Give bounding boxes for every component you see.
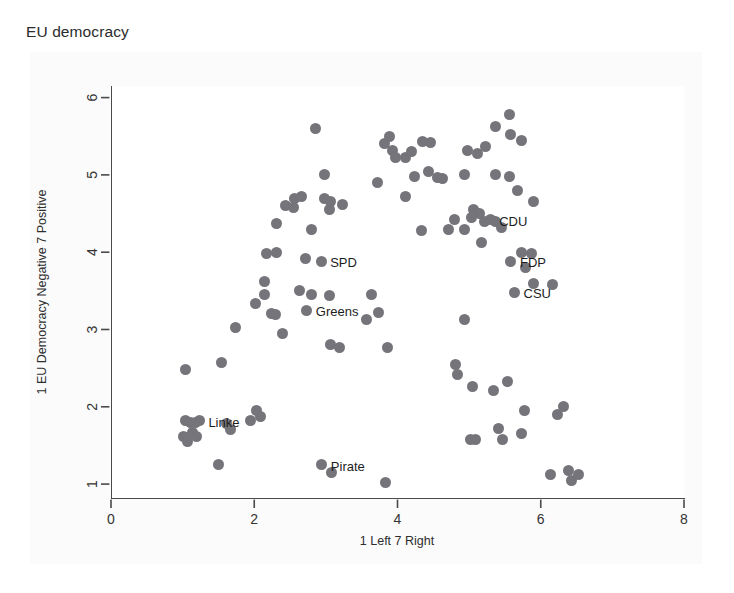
scatter-point (558, 401, 569, 412)
scatter-point (288, 202, 299, 213)
scatter-point (459, 314, 470, 325)
scatter-point-cdu (485, 214, 496, 225)
scatter-point (319, 169, 330, 180)
scatter-point (372, 177, 383, 188)
scatter-point (230, 322, 241, 333)
point-label-pirate: Pirate (331, 458, 365, 473)
scatter-point (409, 171, 420, 182)
scatter-point (416, 225, 427, 236)
scatter-point (512, 185, 523, 196)
scatter-point (216, 357, 227, 368)
point-label-greens: Greens (316, 304, 359, 319)
scatter-point (373, 307, 384, 318)
scatter-point (271, 218, 282, 229)
scatter-point (519, 405, 530, 416)
scatter-point (361, 314, 372, 325)
scatter-point-spd (316, 256, 327, 267)
scatter-point (271, 247, 282, 258)
scatter-point (425, 137, 436, 148)
scatter-point (573, 469, 584, 480)
scatter-point (400, 191, 411, 202)
scatter-point-linke (194, 415, 205, 426)
scatter-point (516, 135, 527, 146)
scatter-point (467, 381, 478, 392)
scatter-point (306, 224, 317, 235)
scatter-point (334, 342, 345, 353)
scatter-point (406, 146, 417, 157)
scatter-point-greens (301, 305, 312, 316)
point-label-cdu: CDU (499, 213, 527, 228)
scatter-point (259, 289, 270, 300)
scatter-point (337, 199, 348, 210)
scatter-point (470, 434, 481, 445)
scatter-point (191, 431, 202, 442)
scatter-point (490, 121, 501, 132)
scatter-point (380, 477, 391, 488)
scatter-point (259, 276, 270, 287)
point-label-linke: Linke (208, 414, 239, 429)
point-label-spd: SPD (330, 255, 357, 270)
scatter-point-csu (509, 287, 520, 298)
scatter-point (296, 191, 307, 202)
scatter-point (502, 376, 513, 387)
scatter-point (306, 289, 317, 300)
scatter-point (294, 285, 305, 296)
page-title: EU democracy (26, 23, 129, 41)
scatter-point-fdp (505, 256, 516, 267)
scatter-point (366, 289, 377, 300)
scatter-point-pirate (316, 459, 327, 470)
chart-figure: EU democracy CDUSPDFDPCSUGreensLinkePira… (0, 0, 734, 593)
scatter-point (505, 129, 516, 140)
scatter-point (324, 204, 335, 215)
scatter-point (382, 342, 393, 353)
scatter-point (459, 224, 470, 235)
scatter-point (490, 169, 501, 180)
scatter-point (452, 369, 463, 380)
point-label-csu: CSU (524, 286, 551, 301)
scatter-point (324, 290, 335, 301)
plot-region: CDUSPDFDPCSUGreensLinkePirate (111, 86, 685, 499)
scatter-point (516, 428, 527, 439)
scatter-point (493, 423, 504, 434)
scatter-point (310, 123, 321, 134)
scatter-point (250, 298, 261, 309)
scatter-point (459, 169, 470, 180)
scatter-point (270, 309, 281, 320)
scatter-point (443, 224, 454, 235)
scatter-point (504, 109, 515, 120)
scatter-point (437, 173, 448, 184)
scatter-point (384, 131, 395, 142)
scatter-point (545, 469, 556, 480)
scatter-point (277, 328, 288, 339)
scatter-point (213, 459, 224, 470)
scatter-point (488, 385, 499, 396)
scatter-point (480, 141, 491, 152)
scatter-point (528, 196, 539, 207)
scatter-point (466, 212, 477, 223)
scatter-point (300, 253, 311, 264)
scatter-point (497, 434, 508, 445)
scatter-point (180, 364, 191, 375)
scatter-point (504, 171, 515, 182)
point-label-fdp: FDP (520, 255, 546, 270)
scatter-point (476, 237, 487, 248)
